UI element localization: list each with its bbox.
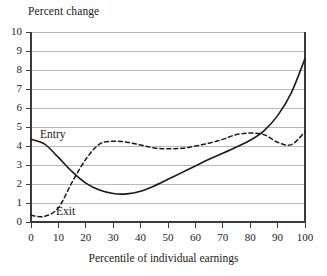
x-axis-ticks [31, 222, 305, 228]
y-tick-label-6: 6 [0, 101, 22, 113]
series-label-entry: Entry [40, 128, 66, 140]
y-tick-label-10: 10 [0, 25, 22, 37]
x-tick-label-80: 80 [235, 231, 265, 243]
y-axis-ticks [26, 32, 31, 222]
x-tick-label-50: 50 [153, 231, 183, 243]
x-tick-label-10: 10 [43, 231, 73, 243]
series-label-exit: Exit [56, 205, 75, 217]
series-line-exit [31, 132, 305, 217]
x-tick-label-40: 40 [126, 231, 156, 243]
y-tick-label-2: 2 [0, 177, 22, 189]
x-tick-label-70: 70 [208, 231, 238, 243]
series-line-entry [31, 59, 305, 194]
gridlines [31, 32, 305, 203]
x-tick-label-100: 100 [290, 231, 320, 243]
chart-figure: Percent change [0, 0, 327, 276]
x-tick-label-0: 0 [16, 231, 46, 243]
x-axis-title: Percentile of individual earnings [0, 252, 327, 264]
y-tick-label-4: 4 [0, 139, 22, 151]
y-tick-label-1: 1 [0, 196, 22, 208]
y-tick-label-8: 8 [0, 63, 22, 75]
x-tick-label-60: 60 [180, 231, 210, 243]
y-tick-label-3: 3 [0, 158, 22, 170]
x-tick-label-30: 30 [98, 231, 128, 243]
y-tick-label-9: 9 [0, 44, 22, 56]
x-tick-label-90: 90 [263, 231, 293, 243]
y-tick-label-7: 7 [0, 82, 22, 94]
y-tick-label-5: 5 [0, 120, 22, 132]
y-tick-label-0: 0 [0, 215, 22, 227]
x-tick-label-20: 20 [71, 231, 101, 243]
